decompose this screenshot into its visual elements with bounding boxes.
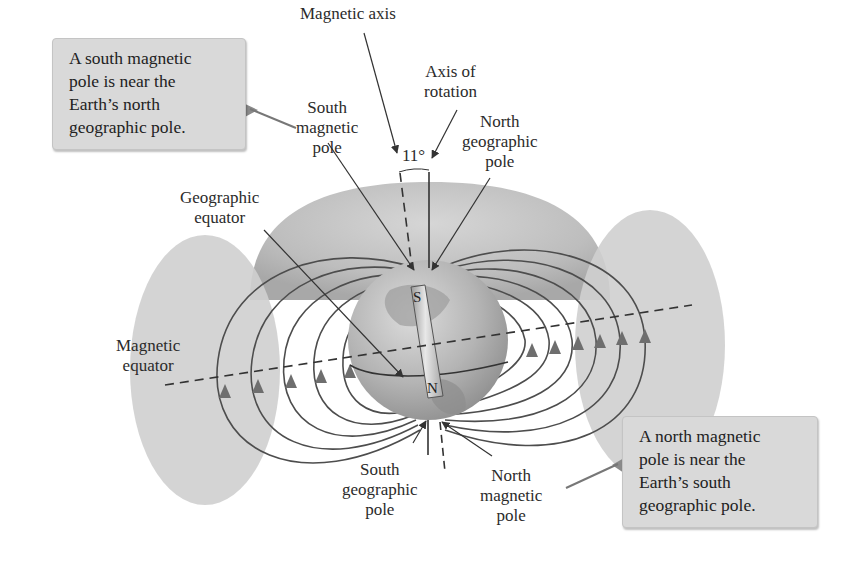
south-magnetic-axis-line	[440, 422, 445, 472]
magnet-north-label: N	[427, 380, 438, 396]
label-magnetic-equator: Magnetic equator	[116, 336, 180, 376]
label-north-magnetic-pole: North magnetic pole	[480, 466, 542, 526]
angle-arc	[399, 169, 429, 172]
label-magnetic-axis: Magnetic axis	[300, 4, 396, 24]
callout-connector-bottom	[566, 464, 618, 488]
label-north-geographic-pole: North geographic pole	[462, 112, 538, 172]
label-axis-of-rotation: Axis of rotation	[424, 62, 477, 102]
callout-south-magnetic-pole: A south magnetic pole is near the Earth’…	[52, 38, 246, 150]
label-south-magnetic-pole: South magnetic pole	[296, 98, 358, 158]
label-south-geographic-pole: South geographic pole	[342, 460, 418, 520]
label-angle: 11°	[402, 146, 425, 166]
label-geographic-equator: Geographic equator	[180, 188, 259, 228]
callout-connector-top	[250, 109, 296, 128]
magnet-south-label: S	[413, 289, 421, 305]
callout-north-magnetic-pole: A north magnetic pole is near the Earth’…	[622, 416, 818, 528]
